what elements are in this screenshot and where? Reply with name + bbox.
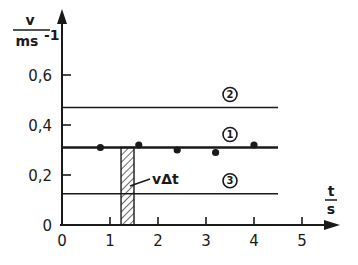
y-tick-label: 0,4	[28, 117, 52, 135]
series-label-2: 2	[227, 89, 234, 100]
x-ticks: 012345	[57, 217, 307, 250]
series-label-1: 1	[227, 129, 234, 140]
x-label-denominator: s	[327, 201, 335, 217]
y-ticks: 00,20,40,6	[28, 67, 71, 235]
x-label-numerator: t	[328, 183, 335, 199]
x-tick-label: 3	[201, 232, 211, 250]
x-tick-label: 2	[153, 232, 163, 250]
data-point	[212, 149, 219, 156]
hatched-area	[121, 148, 134, 226]
annotations: vΔt	[130, 171, 179, 187]
x-axis-arrow-icon	[324, 220, 340, 230]
data-point	[135, 141, 142, 148]
data-point	[174, 146, 181, 153]
y-label-exponent: -1	[44, 27, 60, 43]
velocity-time-chart: v ms -1 t s 012345 00,20,40,6 213 vΔt	[0, 0, 358, 265]
y-tick-label: 0,2	[28, 167, 52, 185]
hatched-area-group	[121, 148, 134, 226]
series-label-3: 3	[227, 175, 234, 186]
annotation-label: vΔt	[152, 171, 179, 187]
data-point	[250, 141, 257, 148]
x-tick-label: 0	[57, 232, 67, 250]
data-point	[97, 144, 104, 151]
y-axis-arrow-icon	[57, 9, 67, 24]
y-label-denominator: ms	[16, 33, 39, 49]
y-tick-label: 0,6	[28, 67, 52, 85]
y-tick-label: 0	[42, 217, 52, 235]
y-label-numerator: v	[25, 12, 34, 28]
x-tick-label: 5	[297, 232, 307, 250]
x-tick-label: 1	[105, 232, 115, 250]
x-tick-label: 4	[249, 232, 259, 250]
